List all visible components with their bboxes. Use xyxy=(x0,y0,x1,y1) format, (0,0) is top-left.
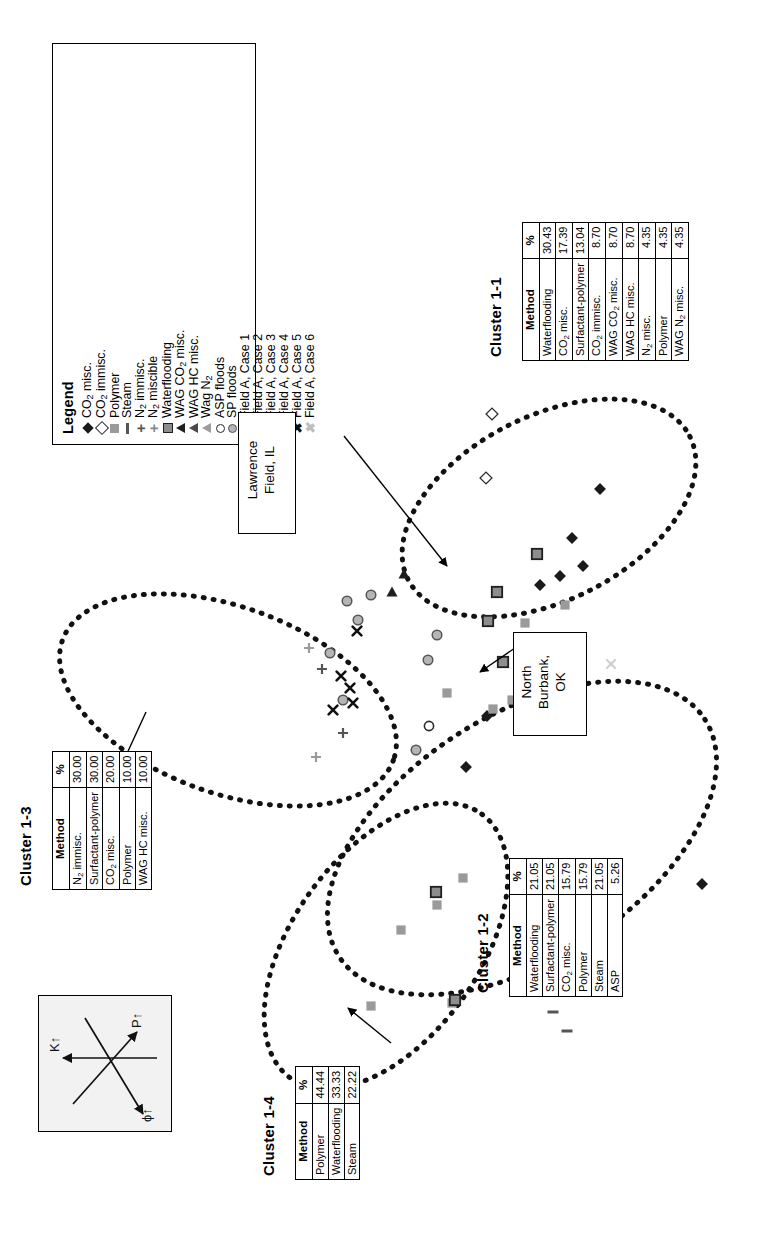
col-pct: % xyxy=(510,858,527,895)
table-row: Surfactant-polymer21.05 xyxy=(542,858,558,996)
table-row: CO2 misc.17.39 xyxy=(555,222,572,360)
table-row: Waterflooding30.43 xyxy=(539,222,555,360)
cluster-1-4-table: Method % Polymer44.44 Waterflooding33.33… xyxy=(295,1066,360,1180)
table-row: Polymer44.44 xyxy=(312,1067,328,1180)
col-method: Method xyxy=(523,259,540,361)
callout-north-burbank: NorthBurbank,OK xyxy=(513,632,587,736)
cluster-1-2-block: Cluster 1-2 Method % Waterflooding21.05 … xyxy=(600,905,750,1036)
table-row: Surfactant-polymer13.04 xyxy=(572,222,588,360)
axis-label-phi: ϕ↑ xyxy=(139,1108,154,1122)
col-method: Method xyxy=(510,895,527,997)
table-row: CO2 misc.15.79 xyxy=(558,858,575,996)
cluster-outline-1-1 xyxy=(366,354,731,661)
table-row: WAG HC misc.10.00 xyxy=(135,751,151,889)
cluster-1-3-table: Method % N2 immisc.30.00 Surfactant-poly… xyxy=(52,751,152,890)
table-row: N2 misc.4.35 xyxy=(638,222,655,360)
table-row: Waterflooding33.33 xyxy=(328,1067,344,1180)
table-row: Polymer10.00 xyxy=(119,751,135,889)
axis-triad-inset: K↑ P↑ ϕ↑ xyxy=(38,995,172,1132)
axis-label-k: K↑ xyxy=(47,1037,62,1052)
series-asp-floods xyxy=(424,721,433,730)
axis-arrow-p xyxy=(73,1032,137,1104)
axis-label-p: P↑ xyxy=(129,1013,144,1028)
cluster-1-4-title: Cluster 1-4 xyxy=(260,1026,277,1176)
table-row: WAG N2 misc.4.35 xyxy=(671,222,688,360)
series-co2-immisc xyxy=(480,408,498,484)
series-n2-miscible xyxy=(304,643,321,762)
cluster-1-1-block: Cluster 1-1 Method % Waterflooding30.43 … xyxy=(613,215,763,399)
table-row: WAG HC misc.8.70 xyxy=(622,222,638,360)
table-row: WAG CO2 misc.8.70 xyxy=(605,222,622,360)
axis-triad-svg: K↑ P↑ ϕ↑ xyxy=(39,996,169,1129)
cluster-1-3-block: Cluster 1-3 Method % N2 immisc.30.00 Sur… xyxy=(105,800,255,917)
callout-text: LawrenceField, IL xyxy=(245,415,279,525)
table-row: N2 immisc.30.00 xyxy=(69,751,86,889)
table-row: Polymer15.79 xyxy=(575,858,591,996)
cluster-1-3-title: Cluster 1-3 xyxy=(17,736,34,886)
table-row: Waterflooding21.05 xyxy=(526,858,542,996)
cluster-1-1-title: Cluster 1-1 xyxy=(487,207,504,357)
cluster-1-2-table: Method % Waterflooding21.05 Surfactant-p… xyxy=(509,858,623,997)
table-row: Steam22.22 xyxy=(344,1067,360,1180)
table-row: CO2 immisc.8.70 xyxy=(588,222,605,360)
cluster-1-2-title: Cluster 1-2 xyxy=(474,843,491,993)
table-row: ASP5.26 xyxy=(607,858,623,996)
col-pct: % xyxy=(523,222,540,259)
cluster-1-4-block: Cluster 1-4 Method % Polymer44.44 Waterf… xyxy=(330,1090,480,1172)
series-wag-co2-misc xyxy=(387,569,410,597)
axis-arrow-phi xyxy=(85,1018,143,1114)
cluster-1-1-table: Method % Waterflooding30.43 CO2 misc.17.… xyxy=(522,222,689,361)
series-steam xyxy=(548,1012,573,1031)
callout-lawrence-field: LawrenceField, IL xyxy=(238,412,296,534)
table-row: Surfactant-polymer30.00 xyxy=(86,751,102,889)
table-row: CO2 misc.20.00 xyxy=(102,751,119,889)
callout-text: NorthBurbank,OK xyxy=(519,636,570,728)
col-pct: % xyxy=(53,751,70,788)
table-row: Polymer4.35 xyxy=(655,222,671,360)
col-method: Method xyxy=(53,788,70,890)
col-pct: % xyxy=(296,1067,313,1104)
table-row: Steam21.05 xyxy=(591,858,607,996)
col-method: Method xyxy=(296,1103,313,1179)
